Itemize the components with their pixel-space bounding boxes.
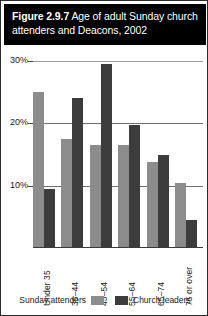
bar-sunday-attenders — [90, 145, 101, 248]
bar-group — [175, 61, 203, 248]
figure-container: Figure 2.9.7 Age of adult Sunday church … — [0, 0, 208, 316]
bar-church-leaders — [186, 220, 197, 248]
figure-number: Figure 2.9.7 — [12, 10, 69, 22]
bar-church-leaders — [158, 155, 169, 249]
legend-swatch-sunday-attenders — [91, 296, 104, 305]
bar-sunday-attenders — [147, 162, 158, 248]
figure-header: Figure 2.9.7 Age of adult Sunday church … — [4, 4, 206, 45]
bar-sunday-attenders — [61, 139, 72, 248]
bar-group — [147, 61, 175, 248]
y-axis-label-20: 20% — [2, 117, 28, 127]
bar-group — [33, 61, 61, 248]
y-axis-label-30: 30% — [2, 55, 28, 65]
bar-group — [118, 61, 146, 248]
bar-sunday-attenders — [175, 183, 186, 248]
chart-legend: Sunday attenders Church leaders — [4, 289, 206, 311]
bar-church-leaders — [101, 64, 112, 248]
legend-swatch-church-leaders — [115, 296, 128, 305]
figure-caption: Figure 2.9.7 Age of adult Sunday church … — [12, 9, 199, 37]
plot-area: 30% 20% 10% — [33, 61, 203, 248]
bar-sunday-attenders — [33, 92, 44, 248]
legend-label-sunday-attenders: Sunday attenders — [19, 295, 86, 305]
legend-label-church-leaders: Church leaders — [133, 295, 191, 305]
bar-church-leaders — [72, 98, 83, 248]
x-axis-line — [33, 247, 203, 248]
bar-group — [61, 61, 89, 248]
bar-group — [90, 61, 118, 248]
y-axis-label-10: 10% — [2, 180, 28, 190]
bar-church-leaders — [44, 189, 55, 248]
bar-groups — [33, 61, 203, 248]
bar-sunday-attenders — [118, 145, 129, 248]
bar-church-leaders — [129, 125, 140, 248]
plot-frame: 30% 20% 10% — [4, 47, 206, 286]
